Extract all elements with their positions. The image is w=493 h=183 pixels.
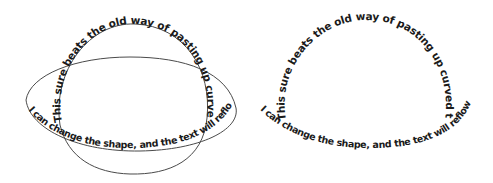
outer-curved-text: This sure beats the old way of pasting u… [0,0,218,123]
panel-paths-hidden: This sure beats the old way of pasting u… [0,0,473,151]
type-on-path-illustration: This sure beats the old way of pasting u… [0,0,493,183]
panel-with-paths: This sure beats the old way of pasting u… [0,0,236,174]
tall-path-hidden [370,20,446,120]
